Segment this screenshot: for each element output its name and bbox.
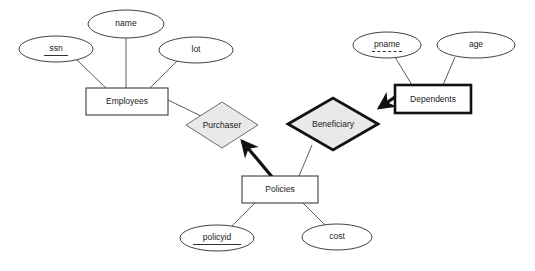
connector-policies-policyid xyxy=(232,203,255,226)
attribute-label-cost: cost xyxy=(329,231,345,241)
attribute-ssn[interactable]: ssn xyxy=(19,36,93,62)
attribute-label-pname: pname xyxy=(374,39,400,49)
connector-policies-cost xyxy=(303,203,325,225)
entity-label-employees: Employees xyxy=(106,96,148,106)
connector-ssn-employees xyxy=(76,59,106,88)
entity-employees[interactable]: Employees xyxy=(86,88,168,115)
attribute-pname[interactable]: pname xyxy=(353,32,421,58)
attribute-age[interactable]: age xyxy=(437,32,515,58)
relationship-purchaser[interactable]: Purchaser xyxy=(186,102,258,148)
attribute-label-ssn: ssn xyxy=(49,43,63,53)
connector-age-dependents xyxy=(443,57,455,85)
attribute-label-name: name xyxy=(115,18,137,28)
connector-lot-employees xyxy=(150,60,178,88)
attribute-lot[interactable]: lot xyxy=(159,37,233,63)
connector-beneficiary-policies xyxy=(299,145,312,176)
entity-policies[interactable]: Policies xyxy=(242,176,318,203)
entity-label-dependents: Dependents xyxy=(410,94,456,104)
connector-dependents-beneficiary xyxy=(379,97,395,108)
relationship-label-beneficiary: Beneficiary xyxy=(312,119,355,129)
relationship-beneficiary[interactable]: Beneficiary xyxy=(288,98,378,150)
relationship-label-purchaser: Purchaser xyxy=(203,120,242,130)
attribute-label-lot: lot xyxy=(192,44,202,54)
attributes-group: ssnnamelotpnameagepolicyidcost xyxy=(19,10,515,251)
attribute-label-policyid: policyid xyxy=(203,232,232,242)
entities-group: EmployeesDependentsPolicies xyxy=(86,85,471,203)
connector-employees-purchaser xyxy=(168,100,201,116)
attribute-name[interactable]: name xyxy=(88,10,164,38)
attribute-label-age: age xyxy=(469,39,483,49)
attribute-cost[interactable]: cost xyxy=(302,224,372,250)
entity-label-policies: Policies xyxy=(265,184,294,194)
relationships-group: PurchaserBeneficiary xyxy=(186,98,378,150)
connector-pname-dependents xyxy=(395,57,412,85)
connector-policies-purchaser xyxy=(242,141,273,178)
attribute-policyid[interactable]: policyid xyxy=(180,225,254,251)
er-diagram-canvas: PurchaserBeneficiary EmployeesDependents… xyxy=(0,0,535,271)
entity-dependents[interactable]: Dependents xyxy=(395,85,471,113)
